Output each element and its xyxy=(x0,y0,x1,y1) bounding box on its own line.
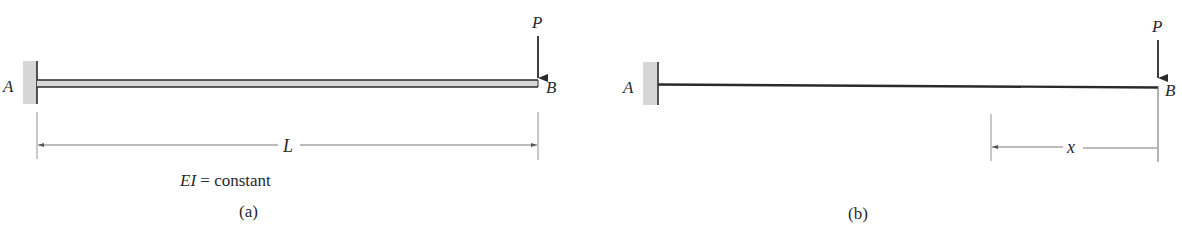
fixed-support-a xyxy=(23,61,37,104)
support-label-b: A xyxy=(622,78,634,97)
support-label-a: A xyxy=(2,77,14,96)
end-label-a: B xyxy=(546,78,557,97)
stiffness-var: EI xyxy=(179,171,197,190)
caption-b: (b) xyxy=(848,204,868,223)
figure-a: A B P L EI = constant (a) xyxy=(2,13,557,221)
stiffness-label: EI = constant xyxy=(179,171,271,190)
fixed-support-b xyxy=(643,62,658,105)
load-label-b: P xyxy=(1151,17,1162,36)
beam-b xyxy=(658,85,1158,88)
distance-label: x xyxy=(1066,137,1075,157)
cantilever-beam-diagram: A B P L EI = constant (a) xyxy=(0,0,1182,236)
beam-a xyxy=(37,80,538,87)
stiffness-rest: = constant xyxy=(196,171,271,190)
end-label-b: B xyxy=(1165,81,1176,100)
figure-b: A B P x (b) xyxy=(622,17,1176,223)
load-label-a: P xyxy=(531,13,542,32)
caption-a: (a) xyxy=(239,202,258,221)
length-label: L xyxy=(282,136,293,156)
